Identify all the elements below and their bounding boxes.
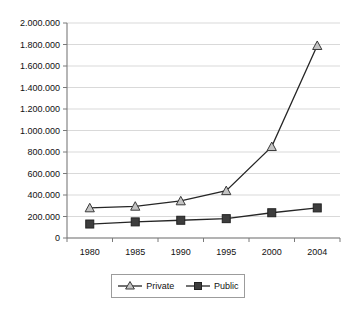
y-axis-tick-label: 2.000.000 (20, 18, 60, 28)
legend-item-private: Private (117, 280, 174, 292)
plot-area: 0200.000400.000600.000800.0001.000.0001.… (0, 0, 358, 270)
square-marker-icon (185, 280, 211, 292)
y-axis-tick-label: 1.000.000 (20, 126, 60, 136)
gridlines-group (67, 23, 340, 238)
x-axis-tick-label: 1980 (80, 247, 100, 257)
data-point-marker (86, 220, 94, 228)
line-chart-svg: 0200.000400.000600.000800.0001.000.0001.… (0, 0, 358, 270)
series-line-public (90, 208, 318, 224)
y-axis-tick-label: 200.000 (27, 212, 60, 222)
series-line-private (90, 46, 318, 208)
y-axis-tick-label: 1.200.000 (20, 104, 60, 114)
x-axis-tick-label: 2000 (262, 247, 282, 257)
axes-group (63, 23, 340, 242)
ytick-labels-group: 0200.000400.000600.000800.0001.000.0001.… (20, 18, 60, 243)
y-axis-tick-label: 800.000 (27, 147, 60, 157)
xtick-labels-group: 198019851990199520002004 (80, 247, 328, 257)
chart-container: 0200.000400.000600.000800.0001.000.0001.… (0, 0, 358, 312)
data-point-marker (222, 215, 230, 223)
data-point-marker (313, 204, 321, 212)
data-point-marker (177, 216, 185, 224)
x-axis-tick-label: 1995 (216, 247, 236, 257)
triangle-marker-icon (117, 280, 143, 292)
data-point-marker (313, 41, 322, 50)
series-lines-group (90, 46, 318, 224)
legend-item-public: Public (185, 280, 239, 292)
legend-label-private: Private (146, 281, 174, 291)
y-axis-tick-label: 1.600.000 (20, 61, 60, 71)
data-point-marker (267, 142, 276, 151)
data-point-marker (131, 218, 139, 226)
y-axis-tick-label: 400.000 (27, 190, 60, 200)
data-point-marker (268, 209, 276, 217)
legend-label-public: Public (214, 281, 239, 291)
y-axis-tick-label: 1.800.000 (20, 40, 60, 50)
x-axis-tick-label: 2004 (307, 247, 327, 257)
x-axis-tick-label: 1990 (171, 247, 191, 257)
x-axis-tick-label: 1985 (125, 247, 145, 257)
data-markers-group (85, 41, 322, 228)
chart-legend: Private Public (111, 274, 245, 298)
y-axis-tick-label: 1.400.000 (20, 83, 60, 93)
y-axis-tick-label: 0 (55, 233, 60, 243)
y-axis-tick-label: 600.000 (27, 169, 60, 179)
